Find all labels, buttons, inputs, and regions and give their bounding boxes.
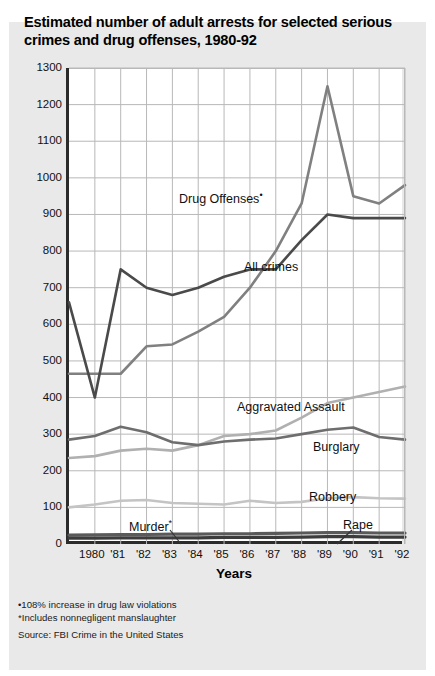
- series-line-drug-offenses: [69, 86, 405, 373]
- drug-offenses-note-marker: •: [259, 190, 262, 200]
- y-tick-label: 900: [16, 207, 62, 219]
- x-tick-label: '82: [136, 548, 151, 560]
- page-title: Estimated number of adult arrests for se…: [24, 14, 404, 49]
- x-tick-label: '84: [188, 548, 203, 560]
- murder-note-marker: *: [169, 518, 173, 528]
- y-tick-label: 500: [16, 354, 62, 366]
- y-tick-label: 200: [16, 464, 62, 476]
- series-label-all-crimes: All crimes: [244, 260, 298, 274]
- series-label-murder: Murder*: [129, 518, 172, 534]
- series-line-murder: [69, 537, 405, 538]
- y-tick-label: 300: [16, 427, 62, 439]
- x-axis-ticks: 1980'81'82'83'84'85'86'87'88'89'90'91'92: [66, 548, 406, 566]
- x-tick-label: '88: [291, 548, 306, 560]
- y-tick-label: 1000: [16, 171, 62, 183]
- y-tick-label: 600: [16, 317, 62, 329]
- y-tick-label: 1300: [16, 61, 62, 73]
- footnote-drug: •108% increase in drug law violations: [18, 598, 348, 611]
- x-tick-label: '83: [162, 548, 177, 560]
- footnotes: •108% increase in drug law violations *I…: [18, 598, 348, 642]
- series-layer: [69, 68, 405, 544]
- y-tick-label: 700: [16, 281, 62, 293]
- series-label-burglary: Burglary: [313, 440, 360, 454]
- x-tick-label: '91: [369, 548, 384, 560]
- chart-page: Estimated number of adult arrests for se…: [0, 0, 435, 676]
- x-tick-label: '90: [343, 548, 358, 560]
- x-tick-label: '92: [395, 548, 410, 560]
- x-tick-label: 1980: [79, 548, 105, 560]
- y-tick-label: 800: [16, 244, 62, 256]
- x-tick-label: '89: [317, 548, 332, 560]
- source-line: Source: FBI Crime in the United States: [18, 628, 348, 641]
- footnote-murder: *Includes nonnegligent manslaughter: [18, 611, 348, 624]
- x-tick-label: '81: [110, 548, 125, 560]
- y-axis-ticks: 0100200300400500600700800900100011001200…: [8, 68, 62, 544]
- y-tick-label: 1100: [16, 134, 62, 146]
- x-tick-label: '86: [239, 548, 254, 560]
- series-line-all-crimes: [69, 214, 405, 397]
- y-tick-label: 1200: [16, 98, 62, 110]
- series-line-rape: [69, 533, 405, 536]
- x-axis-title: Years: [66, 566, 402, 581]
- series-label-robbery: Robbery: [309, 490, 356, 504]
- y-tick-label: 100: [16, 500, 62, 512]
- series-label-drug-offenses: Drug Offenses•: [179, 190, 263, 206]
- x-tick-label: '85: [214, 548, 229, 560]
- y-tick-label: 0: [16, 537, 62, 549]
- plot-wrapper: Number of adult arrests in thousands Dru…: [66, 68, 402, 544]
- series-label-aggravated-assault: Aggravated Assault: [237, 400, 345, 414]
- series-label-rape: Rape: [343, 518, 373, 532]
- y-tick-label: 400: [16, 391, 62, 403]
- x-tick-label: '87: [265, 548, 280, 560]
- plot-area: Drug Offenses• All crimes Aggravated Ass…: [66, 68, 402, 544]
